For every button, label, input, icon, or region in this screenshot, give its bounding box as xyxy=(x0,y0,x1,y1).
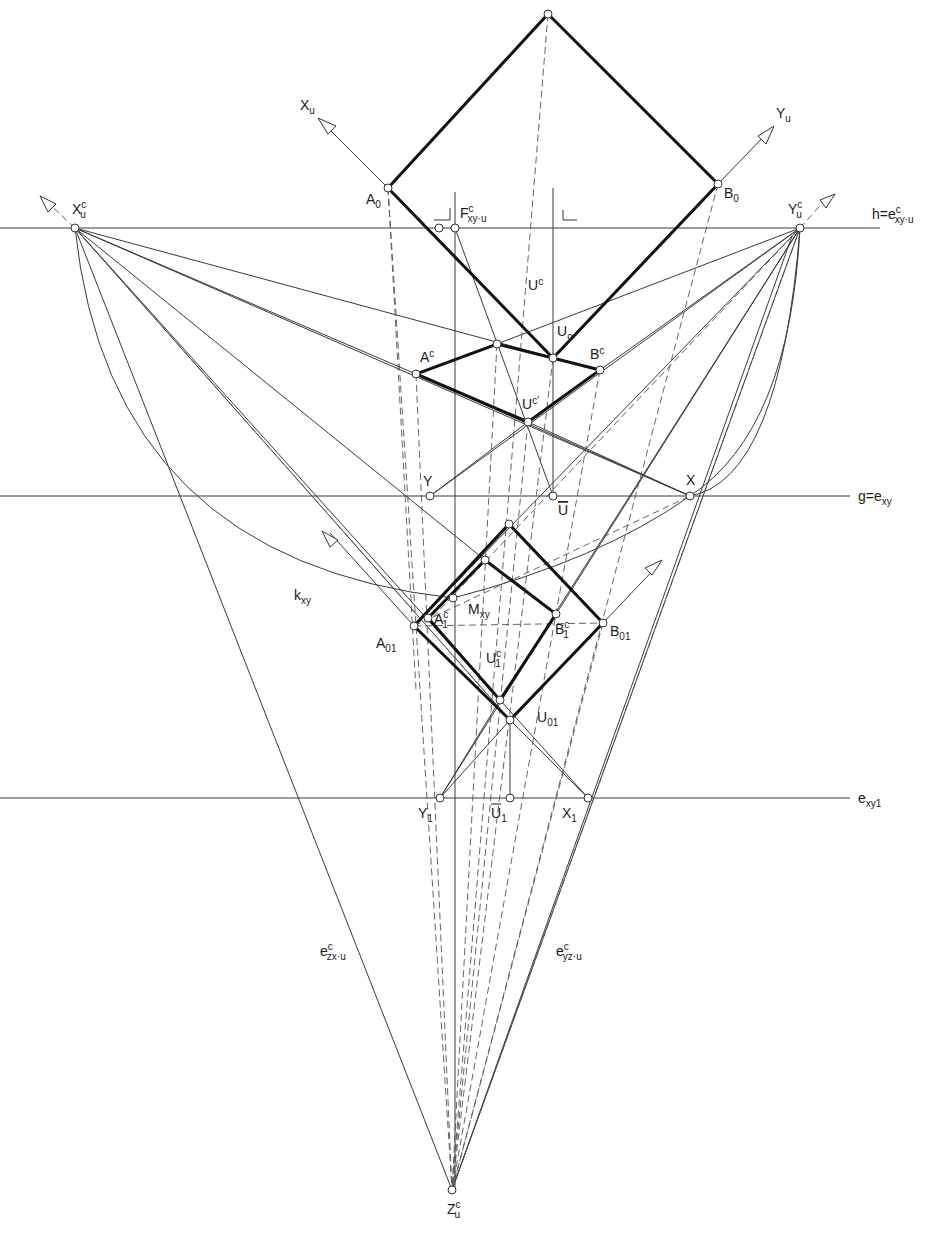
arrow-right-lower-icon xyxy=(645,560,662,575)
label-Yu: Yu xyxy=(776,105,791,124)
rotated-square-inner xyxy=(428,560,556,700)
arrow-Xu-icon xyxy=(318,118,336,134)
geometry-diagram: Xcu Ycu Zcu Xu Yu A0 B0 Fcxy·u Uc Uo Ac … xyxy=(0,0,939,1236)
label-U1c: Uc1 xyxy=(486,648,501,669)
label-Uc-top: Uc xyxy=(528,276,543,293)
right-angle-mark-left xyxy=(434,208,450,220)
right-angle-mark-right xyxy=(563,210,577,220)
label-Ac: Ac xyxy=(420,348,434,365)
label-U1bar: U1 xyxy=(491,805,507,824)
label-Xuc: Xcu xyxy=(72,199,86,220)
label-X: X xyxy=(686,472,696,488)
label-kxy: kxy xyxy=(294,587,311,606)
arrow-Yuc-icon xyxy=(820,194,835,208)
label-X1: X1 xyxy=(562,805,577,824)
label-eyzu: ecyz·u xyxy=(556,941,582,962)
label-B0: B0 xyxy=(724,185,739,204)
arc-kxy xyxy=(75,228,453,598)
label-Yuc: Ycu xyxy=(788,199,802,220)
label-Xu: Xu xyxy=(300,97,315,116)
label-Y1: Y1 xyxy=(418,805,433,824)
label-A1c: Ac1 xyxy=(434,609,448,630)
label-Fxyuc: Fcxy·u xyxy=(460,203,486,224)
label-B1c: Bc1 xyxy=(555,619,569,640)
label-Ucp: Uc' xyxy=(522,395,539,412)
label-A01: A01 xyxy=(376,635,397,654)
label-ezxu: eczx·u xyxy=(320,941,346,962)
label-Ubar: U xyxy=(558,502,568,518)
label-U01: U01 xyxy=(537,709,559,728)
label-Bc: Bc xyxy=(590,345,604,362)
label-Y: Y xyxy=(423,473,433,489)
label-horizon: h=ecxy·u xyxy=(872,204,914,225)
label-ground: g=exy xyxy=(858,488,892,507)
arrow-Yu-icon xyxy=(758,126,774,144)
label-B01: B01 xyxy=(610,623,631,642)
trace-zx-line xyxy=(75,228,452,1190)
label-Zuc: Zcu xyxy=(447,1199,461,1220)
label-plane1: exy1 xyxy=(858,790,882,809)
axis-Xu-line xyxy=(322,122,388,188)
label-A0: A0 xyxy=(366,191,381,210)
label-U0: Uo xyxy=(557,323,573,342)
perspective-square xyxy=(416,344,600,422)
arrow-Xuc-icon xyxy=(40,196,56,212)
projection-rays xyxy=(45,14,800,1190)
label-Mxy: Mxy xyxy=(468,601,490,620)
